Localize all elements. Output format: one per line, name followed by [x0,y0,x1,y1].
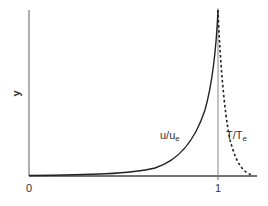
temperature-curve-label: T/Te [226,130,247,143]
x-tick-label-0: 0 [26,183,32,194]
temperature-profile-curve [218,10,252,175]
boundary-layer-plot [0,0,268,206]
y-axis-label: y [11,90,22,96]
velocity-curve-label: u/ue [160,130,180,143]
x-tick-label-1: 1 [215,183,221,194]
velocity-profile-curve [29,10,218,176]
